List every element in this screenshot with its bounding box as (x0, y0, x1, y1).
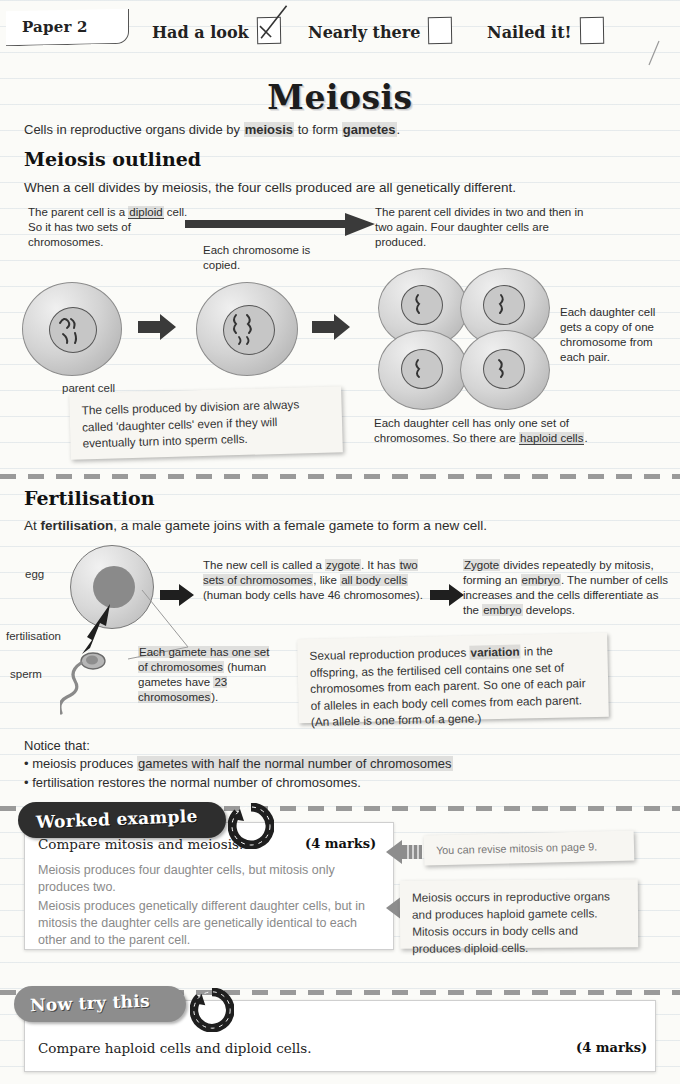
note-parent-cell-diploid: The parent cell is a diploid cell. So it… (28, 205, 203, 250)
notice-item-2: • fertilisation restores the normal numb… (24, 775, 361, 790)
heading-meiosis-outlined: Meiosis outlined (24, 148, 201, 170)
now-try-this-marks: (4 marks) (576, 1040, 647, 1055)
sticky-note-sexual-reproduction: Sexual reproduction produces variation i… (297, 633, 609, 723)
note-haploid-cells: Each daughter cell has only one set of c… (374, 416, 634, 446)
arrow-icon-3 (160, 584, 194, 606)
process-arrow-icon (185, 212, 375, 238)
had-a-look-checkbox[interactable] (256, 17, 280, 44)
hint-note-meiosis-mitosis: Meiosis occurs in reproductive organs an… (400, 879, 638, 949)
status-had-a-look[interactable]: Had a look (152, 17, 281, 44)
copied-cell-diagram (196, 282, 298, 376)
label-egg: egg (25, 568, 44, 580)
lead-fertilisation: At fertilisation, a male gamete joins wi… (24, 518, 654, 533)
lead-fert-bold: fertilisation (41, 518, 114, 533)
nailed-it-label: Nailed it! (487, 23, 572, 42)
section-separator-1 (0, 474, 680, 479)
note-parent-divides: The parent cell divides in two and then … (375, 205, 590, 250)
revision-page: Paper 2 Had a look Nearly there Nailed i… (0, 0, 680, 1084)
heading-fertilisation: Fertilisation (24, 487, 154, 509)
label-fertilisation: fertilisation (6, 630, 61, 642)
note-each-daughter-copy: Each daughter cell gets a copy of one ch… (560, 305, 672, 365)
page-header: Paper 2 Had a look Nearly there Nailed i… (0, 6, 680, 50)
lead-fert-post: , a male gamete joins with a female game… (113, 518, 487, 533)
worked-example-answer-1: Meiosis produces four daughter cells, bu… (38, 862, 368, 896)
daughter-cell-4 (460, 330, 550, 410)
nearly-there-checkbox[interactable] (428, 17, 452, 44)
daughter-chromosome-icon-1 (401, 285, 441, 323)
lead-meiosis-outlined: When a cell divides by meiosis, the four… (24, 180, 654, 195)
duplicated-chromosomes-icon (223, 305, 273, 353)
notice-item-2-text: fertilisation restores the normal number… (32, 775, 361, 790)
intro-mid: to form (294, 122, 342, 137)
page-title: Meiosis (0, 78, 680, 117)
worked-example-answer-2: Meiosis produces genetically different d… (38, 898, 368, 949)
intro-text: Cells in reproductive organs divide by m… (24, 122, 644, 137)
note-zygote: The new cell is called a zygote. It has … (203, 558, 435, 603)
intro-bold-gametes: gametes (342, 122, 397, 137)
daughter-cell-3 (378, 330, 468, 410)
notice-title: Notice that: (24, 738, 90, 753)
nearly-there-label: Nearly there (308, 23, 420, 42)
arrow-icon-1 (138, 314, 176, 340)
daughter-chromosome-icon-3 (401, 349, 441, 387)
nailed-it-checkbox[interactable] (579, 17, 603, 44)
note-chromosome-copied: Each chromosome is copied. (203, 243, 343, 273)
notice-item-1: • meiosis produces gametes with half the… (24, 756, 453, 771)
sticky-note-sexual-reproduction-text: Sexual reproduction produces variation i… (309, 644, 585, 729)
hint-note-meiosis-mitosis-text: Meiosis occurs in reproductive organs an… (412, 889, 610, 955)
parent-cell-diagram (22, 282, 122, 376)
now-try-this-question: Compare haploid cells and diploid cells. (38, 1040, 312, 1056)
sticky-note-daughter-cells: The cells produced by division are alway… (69, 386, 343, 460)
note-gamete-chromosomes: Each gamete has one set of chromosomes (… (138, 645, 278, 705)
had-a-look-label: Had a look (152, 23, 249, 42)
hint-note-revise-mitosis-text: You can revise mitosis on page 9. (436, 840, 597, 856)
intro-pre: Cells in reproductive organs divide by (24, 122, 244, 137)
note-embryo: Zygote divides repeatedly by mitosis, fo… (463, 558, 675, 618)
chromosomes-icon (49, 307, 95, 351)
status-nailed-it[interactable]: Nailed it! (487, 17, 604, 44)
intro-bold-meiosis: meiosis (244, 122, 294, 137)
tick-icon (256, 4, 291, 45)
arrow-icon-4 (430, 584, 464, 606)
guided-circular-arrow-icon-2 (190, 988, 234, 1032)
daughter-chromosome-icon-2 (483, 285, 523, 323)
intro-post: . (397, 122, 401, 137)
daughter-chromosome-icon-4 (483, 349, 523, 387)
worked-example-question: Compare mitosis and meiosis. (38, 836, 243, 852)
sticky-note-daughter-cells-text: The cells produced by division are alway… (81, 397, 299, 450)
pencil-mark-icon (646, 40, 662, 66)
arrow-icon-2 (312, 314, 350, 340)
worked-example-marks: (4 marks) (305, 836, 376, 851)
hint-arrow-icon-1 (386, 840, 422, 864)
paper-label: Paper 2 (22, 18, 88, 36)
label-sperm: sperm (10, 668, 42, 680)
lead-fert-pre: At (24, 518, 41, 533)
status-nearly-there[interactable]: Nearly there (308, 17, 452, 44)
notice-item-1-text: meiosis produces gametes with half the n… (32, 756, 452, 771)
lead-meiosis-outlined-text: When a cell divides by meiosis, the four… (24, 180, 516, 195)
hint-note-revise-mitosis: You can revise mitosis on page 9. (424, 830, 635, 865)
